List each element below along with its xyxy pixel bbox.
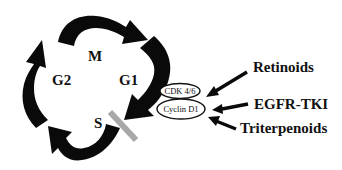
agent-label-egfr-tki: EGFR-TKI bbox=[254, 96, 328, 112]
egfr-tki-arrow-icon bbox=[212, 104, 248, 114]
agent-label-retinoids: Retinoids bbox=[253, 59, 314, 75]
arrow-m-phase-icon bbox=[58, 16, 148, 46]
arrow-s-phase-icon bbox=[48, 124, 120, 160]
cdk-complex-oval: CDK 4/6 bbox=[160, 84, 200, 99]
arrow-g2-phase-icon bbox=[23, 40, 49, 128]
phase-label-g1: G1 bbox=[119, 72, 138, 88]
phase-label-s: S bbox=[94, 115, 102, 131]
cyclin-d1-label: Cyclin D1 bbox=[163, 104, 198, 114]
triterpenoids-arrow-icon bbox=[208, 116, 236, 129]
phase-label-m: M bbox=[88, 48, 102, 64]
cdk-label: CDK 4/6 bbox=[165, 86, 196, 96]
phase-label-g2: G2 bbox=[52, 72, 71, 88]
cell-cycle-diagram: M G1 S G2 CDK 4/6 Cyclin D1 Retinoids EG… bbox=[0, 0, 342, 170]
cyclin-d1-oval: Cyclin D1 bbox=[157, 99, 205, 119]
retinoids-arrow-icon bbox=[206, 72, 247, 97]
agent-label-triterpenoids: Triterpenoids bbox=[240, 120, 327, 136]
